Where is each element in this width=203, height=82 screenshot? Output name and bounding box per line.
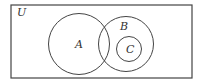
universe-label: U xyxy=(17,6,27,19)
venn-diagram: U A B C xyxy=(0,0,203,82)
set-a-label: A xyxy=(74,38,83,51)
set-b-label: B xyxy=(119,20,128,33)
universe-rectangle xyxy=(11,5,192,78)
set-c-label: C xyxy=(126,43,135,56)
